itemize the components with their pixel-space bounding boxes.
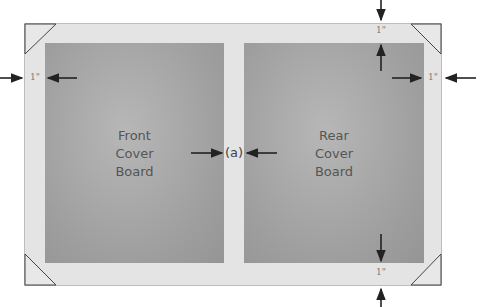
left-margin-label: 1" xyxy=(30,72,40,82)
right-margin-label: 1" xyxy=(428,72,438,82)
bottom-margin-label: 1" xyxy=(376,267,386,277)
top-margin-label: 1" xyxy=(376,25,386,35)
gap-label: (a) xyxy=(225,145,243,160)
